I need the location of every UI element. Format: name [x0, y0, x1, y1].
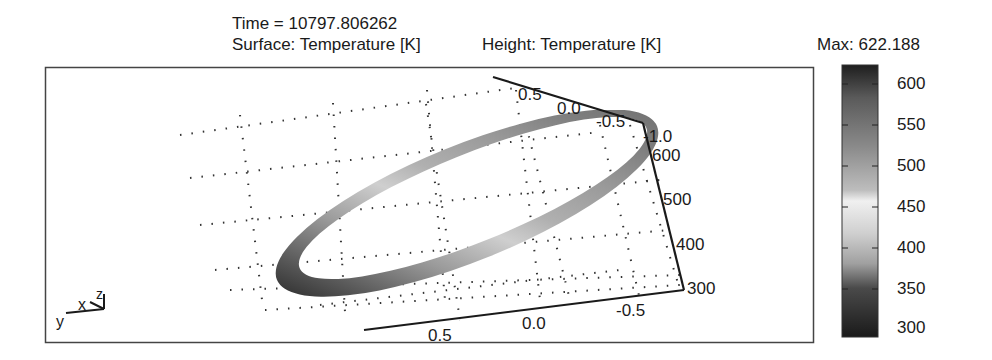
svg-text:500: 500	[663, 190, 691, 209]
svg-text:600: 600	[652, 146, 680, 165]
svg-text:0.0: 0.0	[557, 99, 581, 118]
svg-text:400: 400	[676, 235, 704, 254]
colorbar-tick-300: 300	[897, 318, 925, 338]
colorbar-tick-400: 400	[897, 238, 925, 258]
axis-triad-icon: y x z	[56, 286, 104, 330]
svg-text:y: y	[56, 313, 64, 330]
colorbar-tick-450: 450	[897, 197, 925, 217]
plot-canvas[interactable]: 0.5 0.0 -0.5 -1.0 600 500 400 300 0.5 0.…	[0, 0, 992, 360]
svg-text:300: 300	[687, 279, 715, 298]
colorbar-tick-550: 550	[897, 115, 925, 135]
svg-text:x: x	[78, 296, 86, 313]
colorbar-tick-350: 350	[897, 279, 925, 299]
svg-text:-1.0: -1.0	[643, 127, 672, 146]
temperature-ring-surface	[250, 110, 690, 300]
colorbar-tick-600: 600	[897, 74, 925, 94]
svg-text:0.5: 0.5	[428, 326, 452, 345]
svg-text:0.5: 0.5	[518, 85, 542, 104]
svg-text:-0.5: -0.5	[616, 301, 645, 320]
colorbar-tick-500: 500	[897, 156, 925, 176]
svg-text:0.0: 0.0	[522, 314, 546, 333]
svg-text:-0.5: -0.5	[596, 112, 625, 131]
colorbar	[842, 65, 878, 337]
svg-text:z: z	[96, 286, 103, 302]
